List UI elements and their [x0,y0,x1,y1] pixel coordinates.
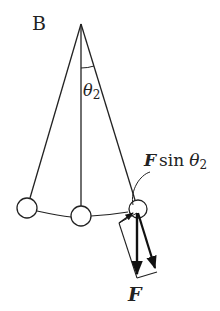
diagram-canvas: B θ2 Fsinθ2 F [0,0,220,311]
right-string [81,24,135,200]
parallelogram-left-edge [119,223,137,278]
force-label: F [127,283,143,305]
connector-right [91,212,128,216]
string-component-arrow [138,213,155,268]
strings [30,24,135,206]
angle-arc [81,66,94,68]
angle-label: θ2 [83,81,100,102]
connector-left [37,211,71,217]
bob-middle [71,206,91,226]
pendulum-force-diagram: B θ2 Fsinθ2 F [0,0,220,311]
left-string [30,24,81,198]
bob-left [17,198,37,218]
parallelogram-top-edge [119,213,137,223]
panel-label: B [32,12,46,34]
parallelogram-bottom-edge [137,272,157,278]
component-label: Fsinθ2 [143,150,207,172]
